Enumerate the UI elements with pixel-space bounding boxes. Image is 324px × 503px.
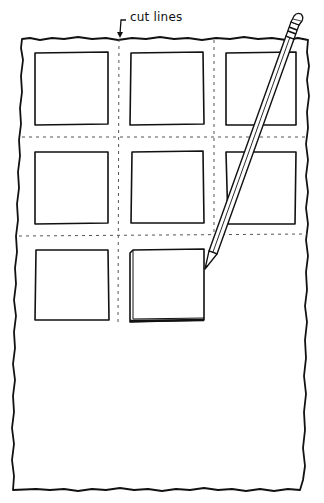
- illustration-canvas: cut lines: [0, 0, 324, 503]
- square-r1c1: [35, 52, 108, 125]
- cut-lines-label: cut lines: [130, 10, 182, 24]
- square-r3c2-traced: [130, 249, 204, 322]
- arrowhead-icon: [117, 32, 123, 38]
- square-r2c2: [131, 151, 204, 223]
- square-r1c2: [130, 52, 204, 125]
- square-r2c1: [35, 152, 108, 224]
- label-leader-arrow: [120, 20, 126, 34]
- square-r3c1: [35, 250, 109, 320]
- sketch-drawing: [0, 0, 324, 503]
